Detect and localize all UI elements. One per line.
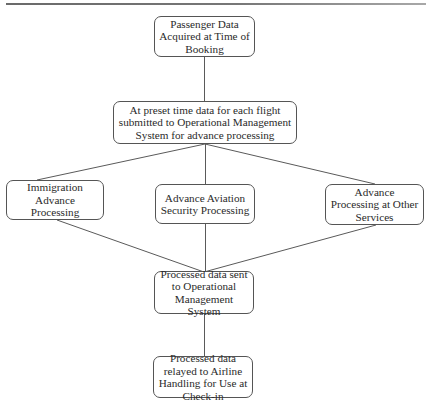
node-label: Advance Aviation Security Processing xyxy=(159,192,251,217)
node-passenger-data-acquired: Passenger Data Acquired at Time of Booki… xyxy=(154,16,255,57)
node-other-services-processing: Advance Processing at Other Services xyxy=(325,184,424,225)
edge-n3-n6 xyxy=(57,220,204,272)
node-immigration-advance-processing: Immigration Advance Processing xyxy=(6,180,104,220)
edge-n2-n3 xyxy=(37,144,205,180)
node-processed-data-sent: Processed data sent to Operational Manag… xyxy=(154,271,254,314)
node-label: At preset time data for each flight subm… xyxy=(117,104,293,142)
node-label: Passenger Data Acquired at Time of Booki… xyxy=(158,18,251,56)
node-label: Processed data sent to Operational Manag… xyxy=(158,268,250,318)
edge-n5-n6 xyxy=(204,225,376,272)
flowchart-diagram: Passenger Data Acquired at Time of Booki… xyxy=(0,0,428,401)
node-label: Advance Processing at Other Services xyxy=(329,186,420,224)
node-label: Immigration Advance Processing xyxy=(10,181,100,219)
node-preset-time-submission: At preset time data for each flight subm… xyxy=(113,101,297,144)
node-label: Processed data relayed to Airline Handli… xyxy=(157,352,249,401)
edge-n2-n5 xyxy=(205,144,375,184)
node-processed-data-relayed: Processed data relayed to Airline Handli… xyxy=(153,356,253,398)
node-aviation-security-processing: Advance Aviation Security Processing xyxy=(155,184,255,224)
